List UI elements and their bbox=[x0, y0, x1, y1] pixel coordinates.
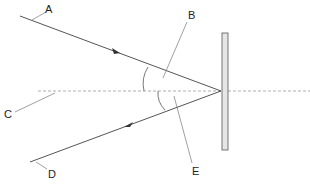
leader-a bbox=[32, 12, 46, 20]
angle-of-incidence-arc bbox=[143, 67, 148, 91]
label-d: D bbox=[48, 168, 56, 180]
label-a: A bbox=[45, 3, 53, 15]
incident-arrow-icon bbox=[112, 48, 120, 54]
incident-ray bbox=[20, 16, 221, 91]
label-c: C bbox=[4, 108, 12, 120]
reflection-diagram: A B C D E bbox=[0, 0, 310, 184]
label-e: E bbox=[192, 165, 199, 177]
angle-of-reflection-arc bbox=[158, 91, 165, 110]
leader-b bbox=[163, 22, 187, 78]
diagram-canvas: A B C D E bbox=[0, 0, 310, 184]
label-b: B bbox=[188, 9, 195, 21]
leader-d bbox=[36, 162, 47, 169]
leader-e bbox=[174, 96, 192, 163]
leader-c bbox=[15, 93, 55, 112]
plane-mirror bbox=[222, 33, 228, 150]
